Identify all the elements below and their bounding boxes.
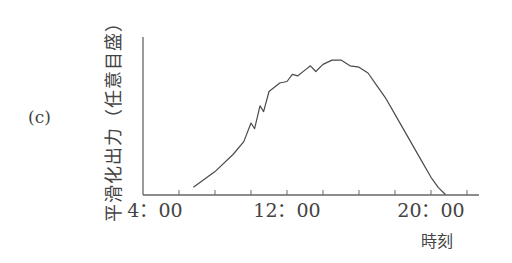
x-tick-label: 4：00 (127, 199, 182, 221)
smoothed-output-line (193, 60, 445, 194)
x-axis-label: 時刻 (421, 228, 453, 252)
x-ticks (179, 190, 467, 195)
axes (143, 37, 479, 195)
x-tick-labels: 4：0012：0020：00 (127, 199, 464, 221)
x-tick-label: 12：00 (253, 199, 320, 221)
x-tick-label: 20：00 (397, 199, 464, 221)
chart-plot: 4：0012：0020：00 (0, 0, 512, 263)
